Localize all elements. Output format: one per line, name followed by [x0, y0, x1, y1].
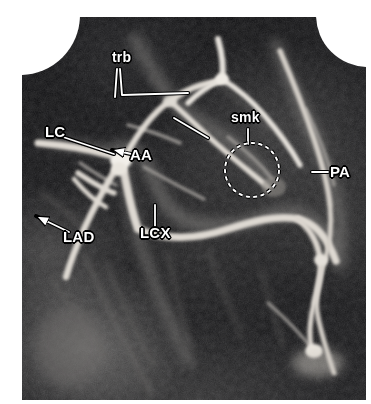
- label-lad[interactable]: LAD: [63, 229, 94, 244]
- angiogram-image: trb LC AA smk PA LCX LAD: [22, 17, 366, 400]
- label-smk[interactable]: smk: [231, 110, 260, 125]
- label-trb[interactable]: trb: [112, 50, 131, 65]
- label-aa[interactable]: AA: [130, 147, 152, 162]
- label-lc[interactable]: LC: [45, 124, 65, 139]
- label-lcx[interactable]: LCX: [140, 225, 171, 240]
- coronary-vessel-tree: [22, 17, 366, 400]
- angiogram-figure: trb LC AA smk PA LCX LAD: [0, 0, 371, 404]
- label-pa[interactable]: PA: [330, 164, 350, 179]
